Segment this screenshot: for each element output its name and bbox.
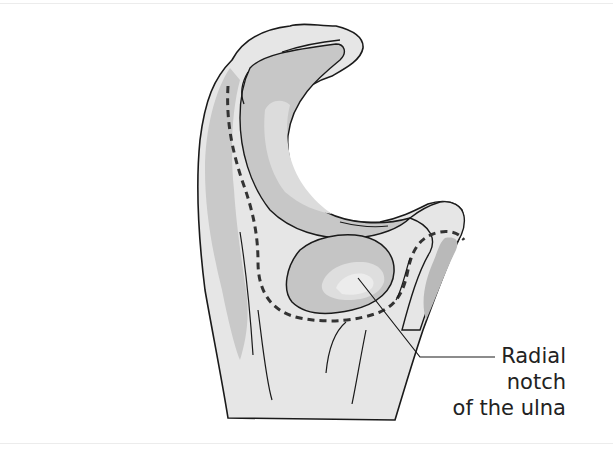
label-radial-notch-line-1: Radial: [501, 343, 566, 369]
label-radial-notch-line-3: of the ulna: [453, 395, 566, 421]
label-radial-notch-line-2: notch: [507, 369, 566, 395]
